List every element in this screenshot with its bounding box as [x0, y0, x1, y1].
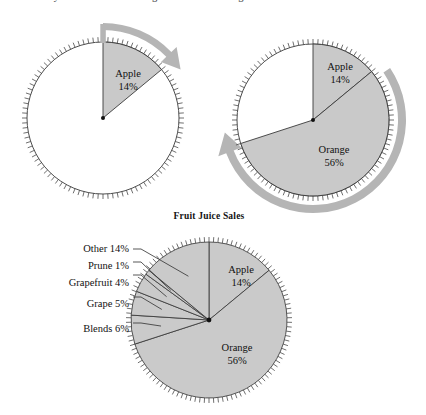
tick-mark: [140, 364, 144, 367]
tick-mark: [153, 259, 156, 263]
tick-mark: [247, 165, 251, 168]
tick-mark: [388, 110, 393, 111]
tick-mark: [271, 368, 275, 371]
tick-mark: [265, 374, 269, 377]
tick-mark: [358, 181, 361, 185]
pie-center-dot: [311, 118, 315, 122]
tick-mark: [377, 161, 381, 164]
tick-mark: [284, 299, 289, 300]
tick-mark: [354, 52, 357, 56]
slice-label-orange-pct: 56%: [324, 157, 344, 168]
tick-mark: [153, 377, 156, 381]
tick-mark: [222, 238, 223, 243]
tick-mark: [247, 72, 251, 75]
side-label-grapefruit: Grapefruit 4%: [69, 277, 130, 288]
slice-label-apple-name: Apple: [327, 61, 353, 72]
tick-mark: [283, 45, 285, 50]
tick-mark: [240, 152, 245, 154]
tick-mark: [195, 397, 196, 402]
tick-mark: [327, 195, 328, 200]
tick-mark: [384, 90, 389, 92]
tick-mark: [282, 348, 287, 350]
tick-mark: [132, 290, 137, 292]
tick-mark: [243, 246, 245, 250]
tick-mark: [243, 390, 245, 394]
tick-mark: [268, 266, 272, 269]
tick-mark: [156, 380, 159, 384]
slice-label-apple-pct: 14%: [231, 277, 251, 288]
tick-mark: [186, 395, 187, 400]
tick-mark: [233, 110, 238, 111]
tick-mark: [218, 238, 219, 243]
tick-mark: [247, 388, 249, 392]
pie-center-dot: [207, 318, 212, 323]
tick-mark: [279, 189, 281, 194]
tick-mark: [132, 348, 137, 350]
tick-mark: [303, 40, 304, 45]
tick-mark: [274, 49, 276, 53]
tick-mark: [255, 383, 258, 387]
tick-mark: [303, 195, 304, 200]
tick-mark: [238, 90, 243, 92]
tick-mark: [130, 344, 135, 346]
tick-mark: [138, 360, 142, 363]
tick-mark: [280, 352, 285, 354]
tick-mark: [350, 187, 352, 191]
tick-mark: [380, 81, 384, 83]
tick-mark: [261, 179, 264, 183]
tick-mark: [138, 277, 142, 280]
tick-mark: [222, 397, 223, 402]
slice-label-orange-name: Orange: [319, 144, 350, 155]
tick-mark: [251, 386, 254, 390]
tick-mark: [134, 352, 139, 354]
tick-mark: [168, 248, 170, 252]
tick-mark: [372, 168, 376, 171]
tick-mark: [168, 388, 170, 392]
tick-mark: [235, 100, 240, 101]
tick-mark: [345, 189, 347, 194]
tick-mark: [273, 273, 277, 276]
tick-mark: [332, 194, 333, 199]
tick-mark: [374, 72, 378, 75]
tick-mark: [177, 244, 179, 249]
tick-mark: [247, 248, 249, 252]
tick-mark: [186, 240, 187, 245]
tick-mark: [251, 250, 254, 254]
tick-mark: [377, 77, 381, 80]
tick-mark: [160, 383, 163, 387]
tick-mark: [368, 65, 372, 68]
tick-mark: [233, 130, 238, 131]
side-label-grape: Grape 5%: [87, 298, 130, 309]
tick-mark: [293, 42, 294, 47]
tick-mark: [136, 281, 140, 283]
side-label-prune: Prune 1%: [88, 260, 129, 271]
tick-mark: [262, 259, 265, 263]
tick-mark: [323, 195, 324, 200]
tick-mark: [255, 253, 258, 257]
tick-mark: [270, 184, 273, 188]
tick-mark: [227, 396, 228, 401]
tick-mark: [361, 179, 364, 183]
tick-mark: [231, 240, 232, 245]
tick-mark: [288, 192, 290, 197]
tick-mark: [368, 172, 372, 175]
tick-mark: [336, 43, 338, 48]
tick-mark: [273, 364, 277, 367]
tick-mark: [323, 40, 324, 45]
slice-label-apple-pct: 14%: [330, 74, 350, 85]
tick-mark: [380, 157, 384, 159]
page-title: Fruit Juice Sales: [129, 211, 289, 221]
tick-mark: [240, 86, 245, 88]
tick-mark: [284, 340, 289, 341]
tick-mark: [181, 242, 183, 247]
pie-final-svg: Apple 14% Orange 56% Other 14% Prune 1% …: [0, 225, 426, 415]
tick-mark: [385, 143, 390, 145]
tick-mark: [274, 187, 276, 191]
tick-mark: [280, 286, 285, 288]
tick-mark: [365, 175, 368, 179]
tick-mark: [384, 148, 389, 150]
tick-mark: [361, 58, 364, 62]
tick-mark: [288, 43, 290, 48]
tick-mark: [262, 377, 265, 381]
pie-step-2-svg: Apple 14% Orange 56%: [0, 0, 426, 215]
